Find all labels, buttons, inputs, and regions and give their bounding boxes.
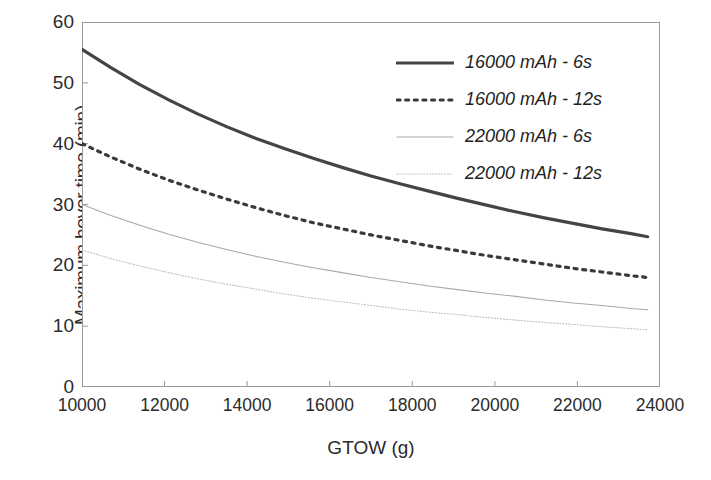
y-tick-label: 30: [30, 194, 74, 216]
legend-item-label: 16000 mAh - 6s: [465, 52, 592, 73]
y-tick-label: 10: [30, 315, 74, 337]
x-tick-label: 24000: [610, 395, 710, 416]
series-line: [82, 250, 648, 330]
chart-legend: 16000 mAh - 6s16000 mAh - 12s22000 mAh -…: [396, 44, 664, 192]
y-tick-label: 20: [30, 254, 74, 276]
legend-item-label: 22000 mAh - 12s: [465, 163, 602, 184]
legend-item: 16000 mAh - 6s: [396, 44, 664, 81]
legend-line-swatch-icon: [396, 93, 454, 107]
y-tick-label: 50: [30, 72, 74, 94]
legend-item-label: 22000 mAh - 6s: [465, 126, 592, 147]
legend-item: 22000 mAh - 6s: [396, 118, 664, 155]
hover-time-chart: Maximum hover time (min) 0102030405060 1…: [0, 0, 711, 480]
legend-line-swatch-icon: [396, 130, 454, 144]
x-axis-title: GTOW (g): [82, 437, 660, 459]
legend-item-label: 16000 mAh - 12s: [465, 89, 602, 110]
legend-line-swatch-icon: [396, 167, 454, 181]
y-tick-label: 60: [30, 11, 74, 33]
legend-item: 22000 mAh - 12s: [396, 155, 664, 192]
legend-line-swatch-icon: [396, 56, 454, 70]
y-tick-label: 40: [30, 133, 74, 155]
x-axis-tick-labels: 1000012000140001600018000200002200024000: [0, 395, 711, 425]
legend-item: 16000 mAh - 12s: [396, 81, 664, 118]
